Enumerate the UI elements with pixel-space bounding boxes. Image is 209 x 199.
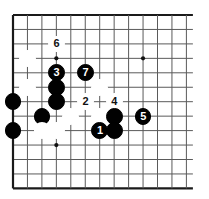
black-stone — [106, 122, 123, 139]
white-stone-move-6: 6 — [48, 36, 65, 53]
stone-move-number: 5 — [140, 110, 146, 121]
stone-move-number: 6 — [54, 38, 60, 49]
black-stone-move-7: 7 — [77, 64, 94, 81]
go-board-diagram: 6372451 — [0, 0, 209, 199]
white-stone — [91, 79, 108, 96]
white-stone — [19, 79, 36, 96]
white-stone — [62, 108, 79, 125]
stone-move-number: 3 — [54, 67, 60, 78]
star-point — [141, 56, 145, 60]
star-point — [54, 143, 58, 147]
black-stone — [48, 93, 65, 110]
black-stone-move-5: 5 — [135, 108, 152, 125]
stone-move-number: 1 — [97, 125, 103, 136]
white-stone — [19, 50, 36, 67]
stone-move-number: 2 — [82, 96, 88, 107]
white-stone-move-2: 2 — [77, 93, 94, 110]
board-grid — [0, 0, 209, 199]
white-stone — [48, 122, 65, 139]
stone-move-number: 7 — [82, 67, 88, 78]
star-point — [54, 56, 58, 60]
stone-move-number: 4 — [111, 96, 117, 107]
